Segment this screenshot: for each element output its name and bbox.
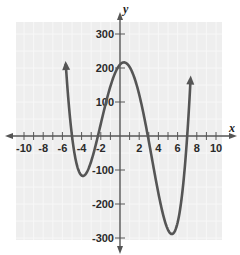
y-tick-label: 300: [96, 28, 114, 40]
x-tick-label: -6: [58, 142, 68, 154]
x-tick-label: 4: [155, 142, 162, 154]
x-tick-label: 8: [194, 142, 200, 154]
y-axis-down-arrow-icon: [117, 246, 123, 254]
plot-background: [16, 22, 222, 240]
y-tick-label: 200: [96, 62, 114, 74]
x-tick-label: 6: [175, 142, 181, 154]
x-tick-label: -4: [77, 142, 88, 154]
x-tick-label: -8: [38, 142, 48, 154]
x-tick-label: -2: [96, 142, 106, 154]
y-tick-label: -300: [92, 232, 114, 244]
x-tick-label: 2: [136, 142, 142, 154]
y-axis-label: y: [121, 2, 129, 16]
y-tick-label: -100: [92, 164, 114, 176]
y-tick-label: -200: [92, 198, 114, 210]
x-axis-left-arrow-icon: [5, 133, 13, 139]
x-tick-label: 10: [210, 142, 222, 154]
x-tick-label: -10: [16, 142, 32, 154]
x-axis-label: x: [228, 121, 235, 135]
polynomial-graph: -10-8-6-4-2246810 300200100-100-200-300 …: [0, 0, 240, 255]
